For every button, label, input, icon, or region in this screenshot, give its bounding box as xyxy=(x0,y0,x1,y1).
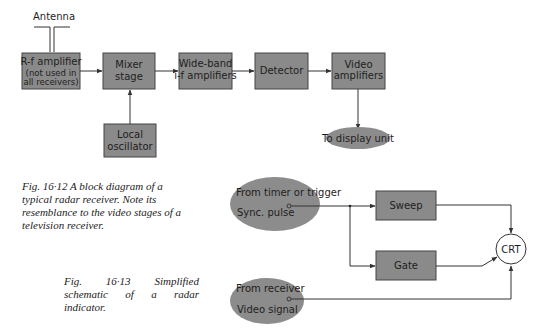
rf-amplifier-block: R-f amplifier (not used in all receivers… xyxy=(20,53,82,89)
detector-label: Detector xyxy=(260,65,304,76)
wideband-label-2: i-f amplifiers xyxy=(174,70,237,81)
display-unit-ellipse: To display unit xyxy=(321,127,394,149)
figure-16-13-caption: Fig. 16·13 Simplified schematic of a rad… xyxy=(64,275,199,314)
trigger-source-ellipse: From timer or trigger Sync. pulse xyxy=(230,177,342,231)
figure-16-12-caption: Fig. 16·12 A block diagram of a typical … xyxy=(22,180,182,232)
display-unit-label: To display unit xyxy=(321,133,394,144)
wideband-label-1: Wide-band xyxy=(179,58,233,69)
fig-16-12-receiver: R-f amplifier (not used in all receivers… xyxy=(20,27,394,157)
rf-amplifier-label: R-f amplifier xyxy=(20,56,82,67)
wideband-if-block: Wide-band i-f amplifiers xyxy=(174,53,237,89)
gate-block: Gate xyxy=(376,251,436,280)
antenna-label: Antenna xyxy=(33,11,75,22)
rf-amplifier-note-2: all receivers) xyxy=(24,77,79,87)
local-osc-label-2: oscillator xyxy=(107,141,153,152)
local-osc-label-1: Local xyxy=(117,129,143,140)
video-signal-label: Video signal xyxy=(237,304,298,315)
mixer-label-2: stage xyxy=(115,71,143,82)
crt-label: CRT xyxy=(501,244,521,255)
video-amp-label-1: Video xyxy=(344,59,372,70)
crt-circle: CRT xyxy=(496,234,526,264)
antenna-icon xyxy=(34,27,70,52)
mixer-label-1: Mixer xyxy=(115,59,143,70)
arrow-trigger-to-gate xyxy=(350,206,375,266)
arrow-sweep-to-crt xyxy=(436,205,511,233)
video-source-label: From receiver xyxy=(236,283,305,294)
sweep-label: Sweep xyxy=(389,200,422,211)
fig-16-13-indicator: From timer or trigger Sync. pulse Sweep … xyxy=(230,177,526,324)
arrow-gate-to-crt xyxy=(436,257,497,266)
mixer-stage-block: Mixer stage xyxy=(103,53,155,89)
video-amp-label-2: amplifiers xyxy=(334,70,384,81)
trigger-source-label: From timer or trigger xyxy=(236,187,342,198)
gate-label: Gate xyxy=(394,260,418,271)
local-oscillator-block: Local oscillator xyxy=(104,124,156,157)
video-source-ellipse: From receiver Video signal xyxy=(230,278,305,324)
video-amplifiers-block: Video amplifiers xyxy=(332,53,385,89)
sweep-block: Sweep xyxy=(376,191,436,220)
sync-pulse-label: Sync. pulse xyxy=(237,207,294,218)
detector-block: Detector xyxy=(255,53,308,89)
